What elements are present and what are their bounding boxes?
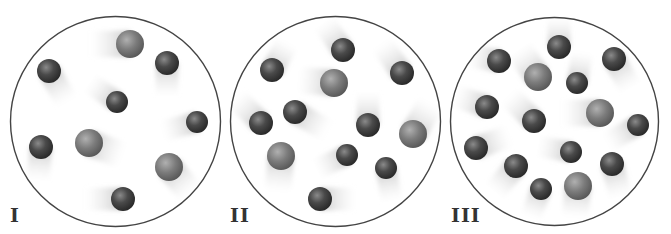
container-panel-2 (227, 16, 442, 227)
small-particle (475, 95, 499, 119)
large-particle (155, 153, 183, 181)
small-particle (336, 144, 358, 166)
panel-label-3: III (451, 206, 481, 225)
panel-label-2: II (230, 206, 250, 225)
large-particle (320, 69, 348, 97)
small-particle (106, 91, 128, 113)
small-particle (390, 61, 414, 85)
small-particle (331, 38, 355, 62)
large-particle (564, 172, 592, 200)
large-particle (267, 142, 295, 170)
small-particle (37, 59, 61, 83)
container-panel-3 (451, 17, 659, 226)
small-particle (566, 72, 588, 94)
large-particle (524, 63, 552, 91)
small-particle (186, 111, 208, 133)
small-particle (283, 100, 307, 124)
container-panel-1 (11, 17, 221, 227)
panel-label-1: I (10, 206, 20, 225)
gas-particle-diagram: IIIIII (0, 0, 671, 234)
small-particle (29, 135, 53, 159)
small-particle (249, 111, 273, 135)
small-particle (530, 178, 552, 200)
small-particle (560, 141, 582, 163)
small-particle (522, 109, 546, 133)
large-particle (116, 30, 144, 58)
small-particle (260, 58, 284, 82)
small-particle (464, 136, 488, 160)
small-particle (547, 35, 571, 59)
small-particle (627, 114, 649, 136)
small-particle (111, 187, 135, 211)
large-particle (586, 99, 614, 127)
large-particle (399, 120, 427, 148)
small-particle (504, 154, 528, 178)
small-particle (155, 51, 179, 75)
figure-canvas (0, 0, 671, 234)
small-particle (375, 157, 397, 179)
small-particle (600, 152, 624, 176)
large-particle (75, 129, 103, 157)
small-particle (308, 187, 332, 211)
small-particle (602, 47, 626, 71)
small-particle (487, 49, 511, 73)
small-particle (356, 113, 380, 137)
